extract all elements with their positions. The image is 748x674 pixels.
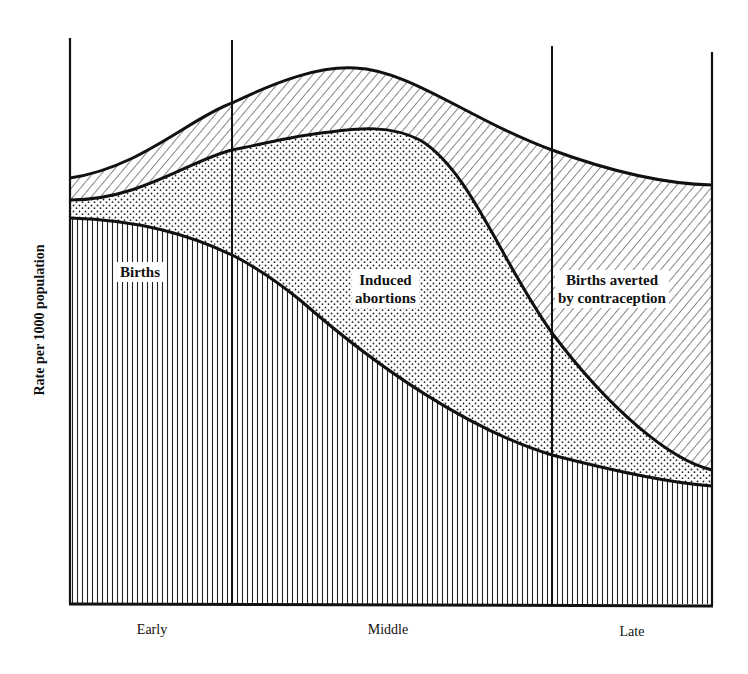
- x-label-middle: Middle: [368, 622, 408, 638]
- label-induced-abortions-line2: abortions: [355, 289, 416, 307]
- label-births: Births: [117, 262, 163, 282]
- label-births-averted-line2: by contraception: [558, 289, 666, 307]
- label-induced-abortions-line1: Induced: [355, 271, 416, 289]
- x-label-late: Late: [620, 624, 645, 640]
- axis-bottom: [69, 604, 713, 606]
- label-births-averted: Births averted by contraception: [555, 270, 669, 308]
- label-births-averted-line1: Births averted: [558, 271, 666, 289]
- x-label-early: Early: [137, 622, 167, 638]
- y-axis-label: Rate per 1000 population: [32, 244, 48, 395]
- stacked-area-chart: [0, 0, 748, 674]
- label-induced-abortions: Induced abortions: [352, 270, 419, 308]
